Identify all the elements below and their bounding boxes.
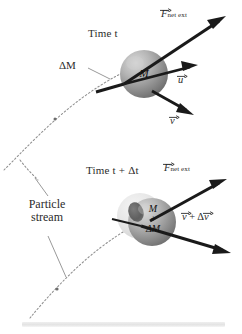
stream-particle-dot-lower [55,287,58,290]
arrow-v-upper [152,91,194,115]
vector-arrow-icon [203,211,211,214]
particle-stream-label: Particle stream [18,198,76,225]
base-bar [22,322,225,327]
delta-mass-text: ΔM [59,59,76,71]
sphere-mass-lower-line3: ΔM [140,224,166,234]
time-label-lower-text: Time t + Δt [86,164,139,176]
vector-label-v-upper: v [170,115,175,126]
leader-line-delta-m [88,68,110,79]
sphere-mass-label-upper: M [134,68,154,79]
time-label-upper-text: Time t [88,27,118,39]
vector-arrow-icon [163,162,172,165]
vector-label-v-plus-dv: v + Δ v [182,211,209,222]
vector-arrow-icon [177,74,185,77]
dv-vector-glyph: v [204,211,209,222]
vector-label-f-net-ext-upper: F net ext [161,8,187,19]
f-vector-glyph-lower: F [164,162,170,173]
v-vector-glyph: v [170,115,175,126]
time-label-lower: Time t + Δt [86,165,139,177]
f-subscript-upper: net ext [167,11,187,19]
stream-particle-dot-upper [54,118,57,121]
particle-stream-line2: stream [18,211,76,224]
f-subscript-lower: net ext [170,165,190,173]
u-vector-glyph: u [178,74,183,85]
vector-label-f-net-ext-lower: F net ext [164,162,190,173]
physics-diagram-figure: Time t ΔM M F net ext u [0,0,242,334]
leader-line-stream-top [35,178,48,196]
sphere-mass-label-lower: M + ΔM [140,204,166,234]
trajectory-curve-lower [20,160,154,318]
sphere-mass-upper-text: M [139,67,148,79]
arrow-tail-upper [96,84,124,92]
f-vector-glyph-upper: F [161,8,167,19]
time-label-upper: Time t [88,28,118,40]
v-vector-glyph-2: v [182,211,187,222]
particle-stream-line1: Particle [18,198,76,211]
vector-arrow-icon [181,211,189,214]
leader-line-particle-stream [48,236,66,277]
delta-mass-label: ΔM [59,60,76,72]
vector-label-u-upper: u [178,74,183,85]
vector-arrow-icon [160,8,169,11]
trajectory-curve-fragment [20,160,38,180]
vector-arrow-icon [169,115,177,118]
